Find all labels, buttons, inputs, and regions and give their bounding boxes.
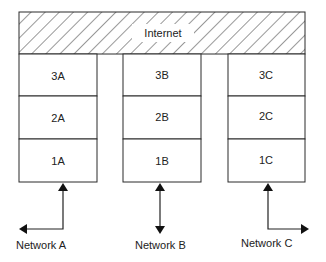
network-a-label: Network A xyxy=(16,239,67,251)
network-c-connector-line xyxy=(268,190,302,229)
layer-2a-label: 2A xyxy=(51,112,65,124)
network-a-connector-line xyxy=(26,190,63,229)
arrow-up-icon xyxy=(155,183,165,191)
network-a-arrow xyxy=(19,183,68,234)
stack-b: 3B 2B 1B xyxy=(123,54,201,182)
network-b-label: Network B xyxy=(135,239,186,251)
arrow-up-icon xyxy=(263,183,273,191)
layer-2b-label: 2B xyxy=(155,111,168,123)
arrow-right-icon xyxy=(301,224,309,234)
internet-layer: Internet xyxy=(19,12,305,54)
layer-3c-label: 3C xyxy=(259,69,273,81)
internet-label: Internet xyxy=(144,27,181,39)
stack-c: 3C 2C 1C xyxy=(228,54,305,182)
network-b-arrow xyxy=(155,183,165,234)
arrow-left-icon xyxy=(19,224,27,234)
layer-2c-label: 2C xyxy=(259,110,273,122)
layer-3b-label: 3B xyxy=(155,69,168,81)
arrow-down-icon xyxy=(155,226,165,234)
layer-1c-label: 1C xyxy=(259,154,273,166)
stack-a: 3A 2A 1A xyxy=(19,54,97,182)
network-layer-diagram: Internet 3A 2A 1A 3B 2B 1B 3C 2C 1C Netw… xyxy=(0,0,326,262)
layer-1b-label: 1B xyxy=(155,155,168,167)
network-c-label: Network C xyxy=(241,237,292,249)
layer-1a-label: 1A xyxy=(51,155,65,167)
arrow-up-icon xyxy=(58,183,68,191)
network-c-arrow xyxy=(263,183,309,234)
layer-3a-label: 3A xyxy=(51,70,65,82)
